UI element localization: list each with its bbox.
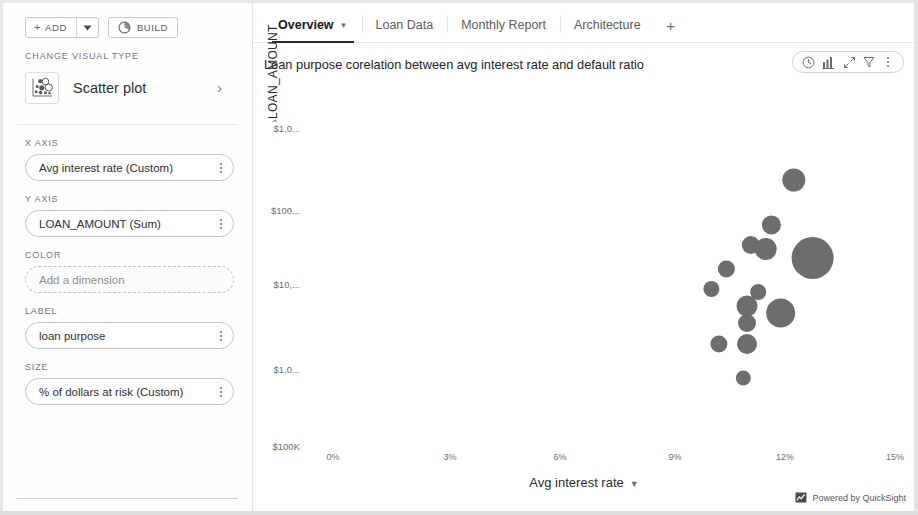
x-tick-5: 15% xyxy=(875,452,915,462)
x-axis-chevron-icon: ▼ xyxy=(630,479,639,489)
size-field-pill[interactable]: % of dollars at risk (Custom) xyxy=(25,378,234,405)
x-tick-3: 9% xyxy=(655,452,695,462)
tab-architecture[interactable]: Architecture xyxy=(560,8,655,42)
label-field-menu-icon[interactable] xyxy=(215,331,227,341)
label-field-value: loan purpose xyxy=(39,330,215,342)
tab-loan-data[interactable]: Loan Data xyxy=(362,8,448,42)
size-field-menu-icon[interactable] xyxy=(215,387,227,397)
color-label: COLOR xyxy=(3,237,252,260)
field-well-color: COLOR Add a dimension xyxy=(3,237,252,293)
clock-icon[interactable] xyxy=(802,56,815,69)
field-well-size: SIZE % of dollars at risk (Custom) xyxy=(3,349,252,405)
scatter-bubble[interactable] xyxy=(792,237,834,279)
tab-overview-label: Overview xyxy=(278,18,334,32)
build-pie-icon xyxy=(118,21,131,34)
field-well-x-axis: X AXIS Avg interest rate (Custom) xyxy=(3,125,252,181)
y-axis-label: Y AXIS xyxy=(3,181,252,204)
caret-down-icon xyxy=(83,25,92,31)
x-axis-title[interactable]: Avg interest rate▼ xyxy=(254,475,914,490)
visual-type-selector[interactable]: Scatter plot › xyxy=(21,68,234,108)
color-field-placeholder: Add a dimension xyxy=(39,274,227,286)
x-axis-label: X AXIS xyxy=(3,125,252,148)
field-well-label: LABEL loan purpose xyxy=(3,293,252,349)
scatter-bubble[interactable] xyxy=(736,371,751,386)
plus-icon: + xyxy=(34,22,41,33)
scatter-bubble[interactable] xyxy=(782,169,805,192)
size-field-value: % of dollars at risk (Custom) xyxy=(39,386,215,398)
add-button-label: ADD xyxy=(45,22,67,33)
scatter-bubble[interactable] xyxy=(738,314,756,332)
plus-icon: + xyxy=(666,17,675,34)
tab-architecture-label: Architecture xyxy=(574,18,641,32)
scatter-plot-icon xyxy=(25,72,59,104)
y-axis-field-pill[interactable]: LOAN_AMOUNT (Sum) xyxy=(25,210,234,237)
add-dropdown-button[interactable] xyxy=(77,25,98,31)
add-sheet-button[interactable]: + xyxy=(655,8,687,42)
label-label: LABEL xyxy=(3,293,252,316)
y-axis-field-menu-icon[interactable] xyxy=(215,219,227,229)
y-axis-field-value: LOAN_AMOUNT (Sum) xyxy=(39,218,215,230)
x-axis-field-pill[interactable]: Avg interest rate (Custom) xyxy=(25,154,234,181)
build-button[interactable]: BUILD xyxy=(108,17,178,38)
window-frame-right xyxy=(914,0,918,515)
scatter-bubble[interactable] xyxy=(718,261,735,278)
x-tick-0: 0% xyxy=(313,452,353,462)
x-tick-1: 3% xyxy=(430,452,470,462)
x-axis-title-label: Avg interest rate xyxy=(529,475,623,490)
tab-loan-data-label: Loan Data xyxy=(376,18,434,32)
quicksight-analysis-window: + ADD BUILD CHANGE VISUAL TYPE xyxy=(0,0,918,515)
visual-actions-toolbar xyxy=(792,51,904,73)
x-tick-2: 6% xyxy=(540,452,580,462)
scatter-bubble[interactable] xyxy=(703,281,719,297)
maximize-icon[interactable] xyxy=(843,56,856,69)
visual-config-sidebar: + ADD BUILD CHANGE VISUAL TYPE xyxy=(3,3,253,511)
x-tick-4: 12% xyxy=(765,452,805,462)
scatter-bubble[interactable] xyxy=(710,336,727,353)
analysis-main-panel: Overview ▼ Loan Data Monthly Report Arch… xyxy=(254,3,914,511)
build-button-label: BUILD xyxy=(137,22,168,33)
tab-monthly-report-label: Monthly Report xyxy=(461,18,546,32)
scatter-bubble[interactable] xyxy=(755,238,777,260)
add-button[interactable]: + ADD xyxy=(25,17,99,38)
scatter-bubbles[interactable] xyxy=(254,111,914,451)
sidebar-toolbar: + ADD BUILD xyxy=(3,3,252,38)
sheet-tab-bar: Overview ▼ Loan Data Monthly Report Arch… xyxy=(254,3,914,43)
size-label: SIZE xyxy=(3,349,252,372)
x-axis-field-menu-icon[interactable] xyxy=(215,163,227,173)
visual-menu-icon[interactable] xyxy=(882,57,894,67)
change-visual-type-label: CHANGE VISUAL TYPE xyxy=(3,38,252,61)
scatter-bubble[interactable] xyxy=(737,334,757,354)
quicksight-icon xyxy=(795,492,807,503)
chevron-right-icon[interactable]: › xyxy=(217,80,228,96)
powered-by-quicksight: Powered by QuickSight xyxy=(795,492,906,503)
color-field-pill[interactable]: Add a dimension xyxy=(25,266,234,293)
x-axis-field-value: Avg interest rate (Custom) xyxy=(39,162,215,174)
powered-by-label: Powered by QuickSight xyxy=(812,493,906,503)
window-frame-bottom xyxy=(0,511,918,515)
visual-type-name: Scatter plot xyxy=(73,80,217,96)
field-well-y-axis: Y AXIS LOAN_AMOUNT (Sum) xyxy=(3,181,252,237)
tab-monthly-report[interactable]: Monthly Report xyxy=(447,8,560,42)
chart-icon[interactable] xyxy=(822,56,836,69)
filter-icon[interactable] xyxy=(863,56,875,69)
scatter-bubble[interactable] xyxy=(766,299,795,328)
scatter-bubble[interactable] xyxy=(737,296,758,317)
label-field-pill[interactable]: loan purpose xyxy=(25,322,234,349)
sidebar-bottom-rule xyxy=(17,498,238,499)
chevron-down-icon[interactable]: ▼ xyxy=(340,21,348,30)
scatter-bubble[interactable] xyxy=(762,216,781,235)
visual-header: Loan purpose corelation between avg inte… xyxy=(254,43,914,77)
scatter-plot-area: $1,0... $100... $10,... $1,0... $100K 0%… xyxy=(254,111,914,481)
